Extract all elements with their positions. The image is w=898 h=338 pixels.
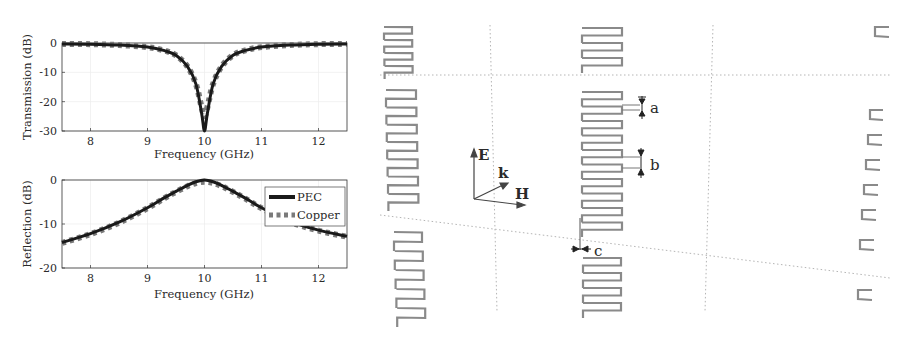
meander-strip bbox=[583, 258, 621, 318]
k-arrowhead-icon bbox=[500, 183, 508, 189]
x-tick-label: 11 bbox=[255, 272, 269, 285]
y-tick-label: -10 bbox=[39, 218, 57, 231]
e-field-label: E bbox=[478, 146, 489, 164]
cell-boundary-h2 bbox=[380, 215, 890, 278]
y-tick-label: -20 bbox=[39, 96, 57, 109]
transmission-x-axis-label: Frequency (GHz) bbox=[154, 147, 254, 161]
meander-strip-partial bbox=[862, 210, 876, 220]
meander-strip bbox=[582, 92, 622, 237]
e-arrowhead-icon bbox=[471, 149, 477, 157]
y-tick-label: 0 bbox=[50, 37, 57, 50]
h-field-label: H bbox=[515, 185, 529, 203]
reflection-y-ticks: 0-10-20 bbox=[39, 174, 65, 275]
meander-strip-partial bbox=[864, 185, 878, 195]
reflection-chart: 0-10-20 89101112 Frequency (GHz) Reflect… bbox=[20, 174, 347, 301]
y-tick-label: -10 bbox=[39, 66, 57, 79]
legend: PEC Copper bbox=[265, 187, 345, 226]
x-tick-label: 8 bbox=[87, 135, 94, 148]
dim-c-arrow-icon bbox=[571, 246, 591, 252]
k-vector-label: k bbox=[498, 164, 509, 182]
legend-pec-label: PEC bbox=[297, 190, 322, 204]
x-tick-label: 8 bbox=[87, 272, 94, 285]
x-tick-label: 9 bbox=[144, 272, 151, 285]
y-tick-label: -30 bbox=[39, 125, 57, 138]
transmission-y-ticks: 0-10-20-30 bbox=[39, 37, 65, 138]
metasurface-svg: a b c E k H bbox=[370, 0, 898, 338]
x-tick-label: 9 bbox=[144, 135, 151, 148]
cell-boundary-v2 bbox=[705, 25, 713, 312]
spectra-panel: 0-10-20-30 89101112 Frequency (GHz) Tran… bbox=[0, 0, 365, 338]
k-vector-icon bbox=[474, 184, 505, 199]
x-tick-label: 10 bbox=[198, 272, 212, 285]
reflection-y-axis-label: Reflection (dB) bbox=[20, 180, 34, 267]
transmission-chart: 0-10-20-30 89101112 Frequency (GHz) Tran… bbox=[20, 34, 347, 161]
meander-strip-partial bbox=[860, 240, 874, 250]
meander-strip bbox=[386, 90, 418, 211]
x-tick-label: 11 bbox=[255, 135, 269, 148]
cell-boundary-v1 bbox=[490, 25, 497, 312]
legend-copper-label: Copper bbox=[297, 208, 340, 222]
metasurface-diagram: a b c E k H bbox=[370, 0, 898, 338]
meander-lines bbox=[384, 27, 889, 327]
y-tick-label: 0 bbox=[50, 174, 57, 187]
dim-c-label: c bbox=[594, 242, 602, 260]
transmission-y-axis-label: Transmission (dB) bbox=[20, 34, 34, 140]
meander-strip-partial bbox=[870, 110, 883, 120]
dim-a-arrow-icon bbox=[638, 96, 646, 119]
dim-b-arrow-icon bbox=[638, 148, 644, 178]
y-tick-label: -20 bbox=[39, 262, 57, 275]
dim-a-label: a bbox=[650, 99, 659, 117]
x-tick-label: 12 bbox=[312, 135, 326, 148]
spectra-svg: 0-10-20-30 89101112 Frequency (GHz) Tran… bbox=[0, 0, 365, 338]
meander-strip bbox=[384, 27, 413, 79]
meander-strip bbox=[582, 28, 622, 73]
x-tick-label: 12 bbox=[312, 272, 326, 285]
meander-strip-partial bbox=[858, 290, 872, 300]
meander-strip-partial bbox=[875, 27, 889, 37]
dim-b-label: b bbox=[650, 156, 660, 174]
meander-strip-partial bbox=[868, 135, 882, 145]
reflection-x-axis-label: Frequency (GHz) bbox=[154, 287, 254, 301]
meander-strip bbox=[394, 232, 425, 327]
meander-strip-partial bbox=[866, 160, 880, 170]
